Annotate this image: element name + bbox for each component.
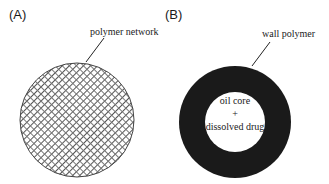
nanosphere-matrix — [20, 63, 134, 177]
polymer-network-circle — [20, 63, 134, 177]
polymer-network-leader-line — [86, 38, 104, 62]
core-line-oil: oil core — [200, 94, 270, 107]
core-line-plus: + — [200, 107, 270, 120]
wall-polymer-leader-line — [252, 42, 270, 66]
core-line-drug: dissolved drug — [200, 120, 270, 133]
polymer-network-label: polymer network — [90, 26, 159, 37]
core-label: oil core + dissolved drug — [200, 94, 270, 133]
panel-a-label: (A) — [9, 7, 26, 22]
wall-polymer-label: wall polymer — [262, 28, 315, 39]
panel-b-label: (B) — [165, 7, 182, 22]
